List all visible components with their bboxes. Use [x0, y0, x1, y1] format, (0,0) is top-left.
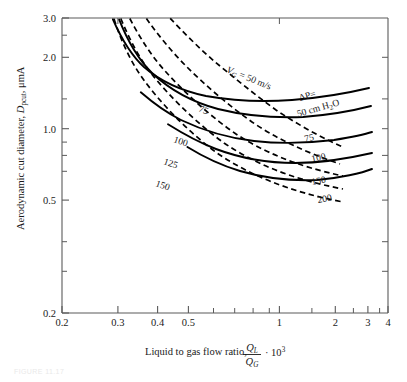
y-tick-label-1: 0.5 [43, 195, 56, 206]
svg-text:ΔP=: ΔP= [298, 88, 317, 103]
x-axis-title: Liquid to gas flow ratio, QL QG · 103 [145, 342, 286, 369]
curve-dp-150 [168, 124, 372, 163]
x-tick-label-0: 0.2 [55, 317, 68, 328]
x-axis-title-exponent: 3 [282, 346, 286, 354]
figure-root: 0.2 0.3 0.4 0.5 1 2 3 4 0.2 0.5 1.0 2.0 … [0, 0, 407, 382]
y-axis-major-ticks [62, 18, 69, 313]
x-axis-title-fraction: QL QG [243, 342, 261, 369]
vg-header-rest: = 50 m/s [236, 68, 274, 92]
curve-dp-50 [113, 19, 369, 101]
x-tick-label-5: 2 [333, 317, 338, 328]
x-axis-minor-ticks [214, 308, 380, 313]
y-axis-title-prefix: Aerodynamic cut diameter, [15, 116, 26, 230]
annotation-dp-200: 200 [316, 192, 332, 205]
y-tick-label-4: 3.0 [43, 13, 56, 24]
x-axis-fraction-numerator-sub: L [253, 347, 258, 355]
y-tick-label-2: 1.0 [43, 124, 56, 135]
y-axis-title-symbol-sub: pcut [20, 93, 28, 105]
x-axis-title-multiplier: · 10 [265, 347, 282, 358]
y-axis-right-ticks [382, 57, 388, 271]
dp-header-symbol: ΔP= [298, 88, 317, 103]
x-axis-tick-labels: 0.2 0.3 0.4 0.5 1 2 3 4 [55, 317, 391, 328]
svg-text:Aerodynamic cut diameter, Dpcu: Aerodynamic cut diameter, Dpcut, μmA [15, 66, 28, 230]
y-axis-title-units: , μmA [15, 66, 26, 93]
y-tick-label-3: 2.0 [43, 52, 56, 63]
x-tick-label-3: 0.5 [182, 317, 195, 328]
x-tick-label-7: 4 [385, 317, 391, 328]
y-axis-tick-labels: 0.2 0.5 1.0 2.0 3.0 [43, 13, 56, 319]
svg-text:QL: QL [246, 342, 258, 355]
figure-caption: FIGURE 11.17 [14, 368, 64, 375]
annotation-vg-150: 150 [154, 177, 171, 192]
svg-text:· 103: · 103 [265, 346, 286, 358]
x-tick-label-1: 0.3 [111, 317, 124, 328]
x-axis-fraction-denominator-sub: G [253, 361, 259, 369]
y-axis-title: Aerodynamic cut diameter, Dpcut, μmA [15, 66, 28, 230]
x-tick-label-6: 3 [365, 317, 370, 328]
annotation-vg-125: 125 [162, 155, 179, 170]
svg-text:QG: QG [246, 356, 260, 369]
svg-text:VG = 50 m/s: VG = 50 m/s [224, 64, 273, 94]
x-axis-title-text: Liquid to gas flow ratio, [145, 346, 247, 357]
annotation-vg-50: VG = 50 m/s [224, 64, 273, 94]
curve-dp-200 [187, 147, 372, 180]
y-tick-label-0: 0.2 [43, 308, 56, 319]
x-tick-label-4: 1 [277, 317, 282, 328]
x-axis-major-ticks [62, 306, 388, 313]
chart-canvas: 0.2 0.3 0.4 0.5 1 2 3 4 0.2 0.5 1.0 2.0 … [0, 0, 407, 382]
x-axis-top-ticks [118, 18, 280, 24]
y-axis-minor-ticks [62, 35, 67, 271]
x-tick-label-2: 0.4 [151, 317, 165, 328]
